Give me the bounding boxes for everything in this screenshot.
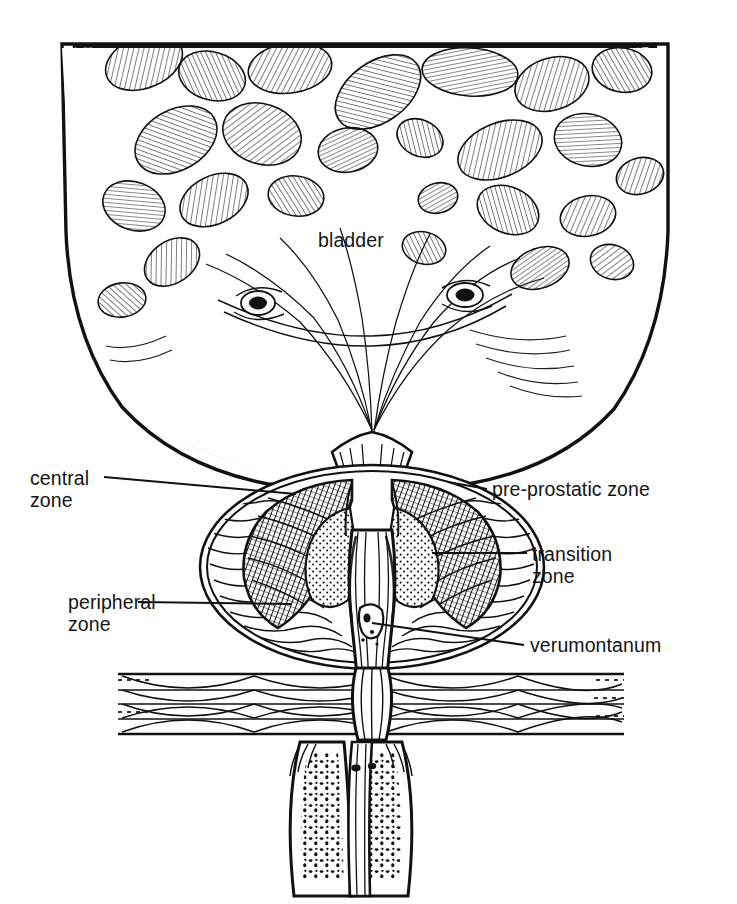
- anatomy-artwork: [0, 0, 737, 904]
- label-transition-zone: transition zone: [532, 543, 612, 587]
- label-verumontanum: verumontanum: [530, 634, 661, 656]
- prostate-anatomy-figure: bladder central zone peripheral zone pre…: [0, 0, 737, 904]
- label-pre-prostatic-zone: pre-prostatic zone: [492, 478, 650, 500]
- label-central-zone: central zone: [30, 467, 89, 511]
- label-bladder: bladder: [318, 229, 384, 251]
- label-peripheral-zone: peripheral zone: [68, 591, 156, 635]
- corpus-spongiosum: [290, 742, 412, 896]
- prostatic-urethra: [349, 530, 395, 690]
- urogenital-diaphragm: [118, 668, 626, 740]
